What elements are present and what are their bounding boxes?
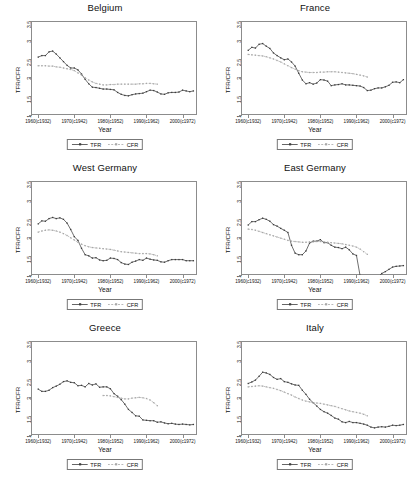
legend-item-cfr[interactable]: CFR <box>108 142 138 148</box>
x-tick-label: 2000(c1972) <box>380 279 406 284</box>
legend-swatch-tfr <box>72 302 88 307</box>
legend-swatch-tfr <box>72 142 88 147</box>
y-axis-ticks: 11.522.533.5 <box>12 21 29 115</box>
series-canvas <box>31 341 197 435</box>
series-canvas <box>241 21 407 115</box>
x-tick-mark <box>356 275 357 278</box>
y-axis-ticks: 11.522.533.5 <box>222 181 239 275</box>
legend-label: TFR <box>300 142 311 148</box>
x-tick-label: 1970(c1942) <box>61 279 87 284</box>
legend-swatch-cfr <box>108 302 124 307</box>
panel-title: East Germany <box>210 162 420 173</box>
x-tick-mark <box>146 115 147 118</box>
x-tick-label: 1960(c1932) <box>235 439 261 444</box>
legend-swatch-cfr <box>318 142 334 147</box>
x-tick-label: 2000(c1972) <box>380 119 406 124</box>
x-tick-label: 1990(c1962) <box>344 439 370 444</box>
x-tick-mark <box>356 435 357 438</box>
legend-label: TFR <box>90 462 101 468</box>
legend-item-tfr[interactable]: TFR <box>72 142 101 148</box>
x-tick-label: 1990(c1962) <box>344 119 370 124</box>
x-tick-mark <box>38 435 39 438</box>
series-canvas <box>31 181 197 275</box>
chart-panel-greece: GreeceTFR/CFR11.522.533.51960(c1932)1970… <box>0 320 210 480</box>
x-tick-label: 1970(c1942) <box>271 279 297 284</box>
legend-label: CFR <box>337 142 349 148</box>
x-tick-label: 1980(c1952) <box>97 439 123 444</box>
chart-legend: TFRCFR <box>67 459 143 470</box>
x-tick-label: 1990(c1962) <box>344 279 370 284</box>
chart-legend: TFRCFR <box>277 459 353 470</box>
x-tick-label: 1970(c1942) <box>61 439 87 444</box>
chart-panel-belgium: BelgiumTFR/CFR11.522.533.51960(c1932)197… <box>0 0 210 160</box>
x-axis-label: Year <box>210 126 420 133</box>
x-tick-mark <box>320 275 321 278</box>
x-tick-label: 1980(c1952) <box>97 119 123 124</box>
x-tick-mark <box>393 275 394 278</box>
legend-swatch-tfr <box>282 302 298 307</box>
x-tick-label: 1980(c1952) <box>307 439 333 444</box>
series-canvas <box>31 21 197 115</box>
legend-label: TFR <box>90 142 101 148</box>
x-tick-mark <box>284 435 285 438</box>
x-tick-mark <box>74 115 75 118</box>
legend-swatch-cfr <box>318 302 334 307</box>
legend-item-cfr[interactable]: CFR <box>318 142 348 148</box>
legend-label: TFR <box>300 302 311 308</box>
legend-label: CFR <box>127 302 139 308</box>
x-tick-mark <box>183 435 184 438</box>
y-axis-ticks: 11.522.533.5 <box>222 21 239 115</box>
x-tick-mark <box>248 275 249 278</box>
plot-area <box>31 21 197 115</box>
chart-panel-france: FranceTFR/CFR11.522.533.51960(c1932)1970… <box>210 0 420 160</box>
x-tick-label: 1960(c1932) <box>235 119 261 124</box>
x-axis-label: Year <box>210 446 420 453</box>
legend-item-cfr[interactable]: CFR <box>318 462 348 468</box>
x-tick-mark <box>393 115 394 118</box>
chart-legend: TFRCFR <box>67 139 143 150</box>
legend-item-tfr[interactable]: TFR <box>282 142 311 148</box>
x-tick-mark <box>248 435 249 438</box>
legend-swatch-tfr <box>282 462 298 467</box>
legend-item-cfr[interactable]: CFR <box>108 462 138 468</box>
plot-area <box>241 21 407 115</box>
x-tick-label: 1960(c1932) <box>25 119 51 124</box>
x-axis-label: Year <box>0 446 210 453</box>
x-tick-mark <box>284 115 285 118</box>
legend-item-tfr[interactable]: TFR <box>282 462 311 468</box>
legend-swatch-cfr <box>318 462 334 467</box>
legend-label: CFR <box>127 142 139 148</box>
legend-label: TFR <box>300 462 311 468</box>
legend-swatch-cfr <box>108 142 124 147</box>
legend-label: CFR <box>127 462 139 468</box>
chart-legend: TFRCFR <box>277 139 353 150</box>
x-tick-mark <box>356 115 357 118</box>
x-tick-mark <box>74 435 75 438</box>
legend-item-tfr[interactable]: TFR <box>282 302 311 308</box>
x-tick-mark <box>110 435 111 438</box>
plot-area <box>241 341 407 435</box>
x-tick-mark <box>74 275 75 278</box>
x-tick-label: 1960(c1932) <box>25 439 51 444</box>
x-tick-label: 2000(c1972) <box>170 279 196 284</box>
x-tick-mark <box>38 115 39 118</box>
x-tick-mark <box>110 275 111 278</box>
panel-title: West Germany <box>0 162 210 173</box>
plot-area <box>31 341 197 435</box>
legend-item-tfr[interactable]: TFR <box>72 302 101 308</box>
legend-label: CFR <box>337 462 349 468</box>
y-axis-ticks: 11.522.533.5 <box>12 341 29 435</box>
x-tick-label: 1980(c1952) <box>97 279 123 284</box>
legend-swatch-tfr <box>282 142 298 147</box>
legend-item-tfr[interactable]: TFR <box>72 462 101 468</box>
chart-legend: TFRCFR <box>277 299 353 310</box>
panel-title: Belgium <box>0 2 210 13</box>
x-tick-label: 2000(c1972) <box>170 439 196 444</box>
x-tick-mark <box>146 275 147 278</box>
legend-item-cfr[interactable]: CFR <box>318 302 348 308</box>
y-axis-ticks: 11.522.533.5 <box>222 341 239 435</box>
x-axis-label: Year <box>0 126 210 133</box>
x-tick-label: 1960(c1932) <box>25 279 51 284</box>
legend-item-cfr[interactable]: CFR <box>108 302 138 308</box>
x-tick-label: 1990(c1962) <box>134 279 160 284</box>
